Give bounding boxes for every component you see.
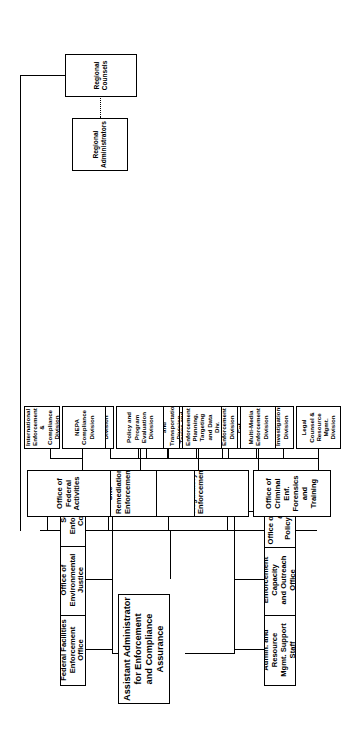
connector-staff-1 <box>234 649 264 650</box>
env-justice-line-2: Environmental Justice <box>69 547 86 613</box>
multi-media-line-2: Enforcement Division <box>254 409 269 446</box>
admin-staff-line-2: Mgmt. Support Staff <box>280 617 296 683</box>
enf-planning-line-2: Targeting and Data Div. <box>198 409 220 446</box>
connector-regulatory-to-bus <box>258 458 259 470</box>
root-line-2: for Enforcement <box>133 597 144 701</box>
connector-criminal-child-bus <box>256 458 318 459</box>
water-enf-line-2: Division <box>228 409 235 446</box>
reg-admin-line-1: Regional <box>92 121 100 168</box>
multi-media-enforcement-division-box[interactable]: Multi-Media Enforcement Division <box>240 406 276 449</box>
assistant-administrator-box[interactable]: Assistant Administrator for Enforcement … <box>118 594 170 704</box>
connector-regulatory-c1 <box>258 449 259 459</box>
enforcement-planning-targeting-and-data-div-box[interactable]: Enforcement Planning, Targeting and Data… <box>182 406 222 449</box>
legal-counsel-line-1: Legal Counsel & <box>300 409 315 446</box>
nepa-line-1: NEPA Compliance <box>73 409 88 446</box>
enf-planning-line-1: Enforcement Planning, <box>184 409 199 446</box>
connector-federal-c2 <box>50 449 51 459</box>
office-of-environmental-justice-box[interactable]: Office of Environmental Justice <box>60 544 86 616</box>
site-rem-line-2: Enforcement <box>124 473 133 514</box>
multi-media-line-1: Multi-Media <box>247 409 254 446</box>
regional-administrators-box[interactable]: Regional Administrators <box>72 118 128 171</box>
connector-root-to-main-rail <box>170 531 171 579</box>
enforcement-capacity-and-outreach-office-box[interactable]: Enforcement Capacity and Outreach Office <box>264 544 296 616</box>
connector-site-child-bus <box>110 458 140 459</box>
connector-regulatory-c2 <box>228 449 229 459</box>
intl-enf-line-2: & Compliance Division <box>38 409 60 446</box>
connector-criminal-to-bus <box>318 458 319 470</box>
connector-rail-to-compliance <box>168 517 169 531</box>
criminal-inv-line-2: Division <box>282 409 289 446</box>
admin-and-resource-mgmt-support-staff-box[interactable]: Admin. and Resource Mgmt. Support Staff <box>264 614 296 686</box>
office-of-criminal-enf-forensics-and-training-box[interactable]: Office of Criminal Enf. Forensics and Tr… <box>253 470 331 517</box>
reg-counsel-line-2: Counsels <box>101 57 109 94</box>
org-chart-canvas: Assistant Administrator for Enforcement … <box>0 0 343 738</box>
connector-rail-to-regulatory <box>227 517 228 531</box>
regulatory-office-line-2: Enforcement <box>197 473 206 514</box>
connector-root-to-staff-bus <box>185 653 234 654</box>
nepa-line-2: Division <box>88 409 95 446</box>
intl-enf-line-1: International Enforcement <box>24 409 38 446</box>
root-line-3: and Compliance <box>144 597 155 701</box>
connector-staff-2 <box>234 579 264 580</box>
connector-rail-to-regional <box>20 75 21 531</box>
connector-compliance-c1 <box>198 449 199 459</box>
policy-prog-line-2: Evaluation Division <box>140 409 155 446</box>
legal-counsel-and-resource-mgmt-division-box[interactable]: Legal Counsel & Resource Mgmt. Division <box>296 406 341 449</box>
fed-activities-line-1: Office of Federal <box>56 473 74 514</box>
connector-top-1 <box>86 649 113 650</box>
office-of-federal-activities-box[interactable]: Office of Federal Activities <box>27 470 111 517</box>
org-chart-page: Assistant Administrator for Enforcement … <box>0 0 343 738</box>
federal-facilities-enforcement-office-box[interactable]: Federal Facilities Enforcement Office <box>60 614 86 686</box>
connector-top-2 <box>86 579 113 580</box>
fed-fac-line-2: Enforcement Office <box>69 617 86 683</box>
connector-federal-child-bus <box>50 458 82 459</box>
root-line-4: Assurance <box>155 597 166 701</box>
connector-compliance-to-bus <box>198 458 199 470</box>
connector-federal-c1 <box>82 449 83 459</box>
fed-activities-line-2: Activities <box>73 473 82 514</box>
regional-counsels-box[interactable]: Regional Counsels <box>65 54 137 97</box>
international-enforcement-and-compliance-division-box[interactable]: International Enforcement & Compliance D… <box>24 406 60 449</box>
connector-site-c2 <box>110 449 111 459</box>
admin-staff-line-1: Admin. and Resource <box>264 617 280 683</box>
connector-criminal-c2 <box>283 449 284 459</box>
connector-regional-dotted-link <box>100 96 101 118</box>
connector-site-c1 <box>140 449 141 459</box>
connector-compliance-c2 <box>167 449 168 459</box>
enf-capacity-line-1: Enforcement Capacity <box>264 547 280 613</box>
policy-prog-line-1: Policy and Program <box>125 409 140 446</box>
connector-staff-bus <box>234 510 235 654</box>
policy-and-program-evaluation-division-box[interactable]: Policy and Program Evaluation Division <box>116 406 164 449</box>
connector-site-to-bus <box>140 458 141 470</box>
criminal-office-line-2: Forensics and Training <box>292 473 319 514</box>
connector-criminal-c1 <box>318 449 319 459</box>
root-line-1: Assistant Administrator <box>122 597 133 701</box>
reg-admin-line-2: Administrators <box>100 121 108 168</box>
connector-rail-to-federal-activities <box>47 517 48 531</box>
legal-counsel-line-2: Resource Mgmt. Division <box>315 409 337 446</box>
connector-regional-counsels-drop <box>20 75 65 76</box>
connector-rail-to-site-remediation <box>108 517 109 531</box>
reg-counsel-line-1: Regional <box>93 57 101 94</box>
connector-federal-to-bus <box>82 458 83 470</box>
criminal-office-line-1: Office of Criminal Enf. <box>265 473 292 514</box>
enf-capacity-line-2: and Outreach Office <box>280 547 296 613</box>
nepa-compliance-division-box[interactable]: NEPA Compliance Division <box>62 406 106 449</box>
